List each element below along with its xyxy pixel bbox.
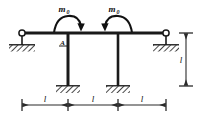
dimension-label-span-left: l bbox=[44, 94, 47, 104]
moment-label-right: m bbox=[108, 4, 115, 14]
dimension-label-height: l bbox=[180, 55, 183, 65]
frame-diagram: m 0 m 0 A l l l l bbox=[0, 0, 202, 118]
dimension-label-span-middle: l bbox=[92, 94, 95, 104]
moment-arrow-right bbox=[101, 16, 132, 33]
moment-label-left: m bbox=[58, 4, 65, 14]
moment-label-right-subscript: 0 bbox=[117, 9, 120, 15]
fixed-support-left-column bbox=[56, 86, 80, 93]
joint-label-a: A bbox=[59, 39, 65, 47]
fixed-support-right-column bbox=[106, 86, 130, 93]
dimension-label-span-right: l bbox=[141, 94, 144, 104]
diagram-canvas: m 0 m 0 A l l l l bbox=[0, 0, 202, 118]
moment-label-left-subscript: 0 bbox=[67, 9, 70, 15]
moment-arrow-left bbox=[54, 16, 85, 33]
